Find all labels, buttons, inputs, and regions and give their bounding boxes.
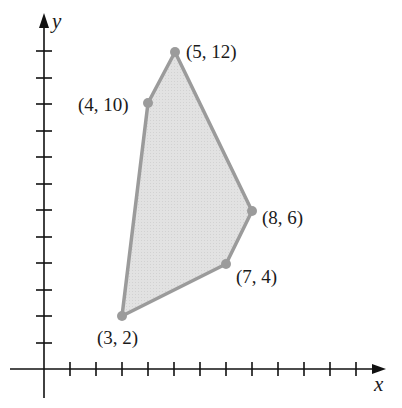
vertex-label-8-6: (8, 6) bbox=[262, 207, 303, 229]
vertex-5-12 bbox=[170, 47, 180, 57]
vertex-label-5-12: (5, 12) bbox=[186, 41, 237, 63]
y-axis bbox=[36, 13, 52, 398]
feasible-region-chart: x y (3, 2) (7, 4) (8, 6) (5, 12) (4, 10) bbox=[0, 0, 402, 408]
vertex-7-4 bbox=[221, 259, 231, 269]
vertex-3-2 bbox=[117, 311, 127, 321]
x-axis bbox=[10, 362, 386, 376]
y-axis-label: y bbox=[50, 9, 62, 33]
x-axis-label: x bbox=[373, 372, 384, 396]
feasible-region bbox=[122, 52, 252, 316]
vertex-8-6 bbox=[247, 206, 257, 216]
vertex-label-7-4: (7, 4) bbox=[236, 266, 277, 288]
vertex-label-4-10: (4, 10) bbox=[78, 94, 129, 116]
vertex-label-3-2: (3, 2) bbox=[97, 327, 138, 349]
y-axis-arrow-icon bbox=[39, 13, 49, 28]
vertex-4-10 bbox=[143, 98, 153, 108]
